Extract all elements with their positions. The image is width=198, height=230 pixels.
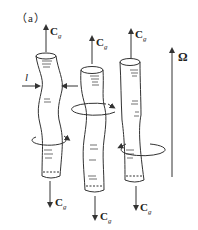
- left-top-cg-label: Cg: [50, 26, 61, 40]
- taylor-columns-figure: （a） Cg Cg Cg Cg Cg Cg l Ω: [0, 0, 198, 230]
- middle-top-cg-label: Cg: [96, 37, 107, 51]
- left-bottom-cg-label: Cg: [55, 197, 66, 211]
- left-rotation-ellipse: [32, 137, 66, 145]
- left-column: [22, 27, 78, 205]
- middle-bottom-cg-label: Cg: [100, 211, 111, 225]
- right-bottom-cg-label: Cg: [140, 202, 151, 216]
- omega-label: Ω: [178, 51, 188, 63]
- diagram-canvas: [0, 0, 198, 230]
- middle-column: [72, 38, 115, 218]
- right-top-cg-label: Cg: [135, 29, 146, 43]
- width-label: l: [25, 72, 28, 83]
- right-column: [120, 31, 165, 208]
- panel-label: （a）: [16, 13, 46, 24]
- middle-rotation-ellipse: [72, 103, 115, 115]
